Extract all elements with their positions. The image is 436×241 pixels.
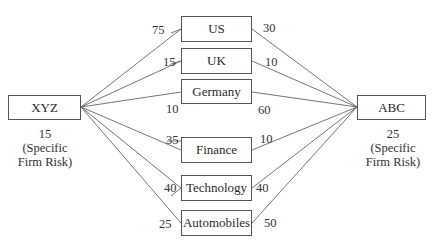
weight-abc-germany: 60 bbox=[258, 104, 271, 117]
factor-box-us: US bbox=[181, 16, 252, 42]
factor-box-uk: UK bbox=[181, 48, 252, 74]
weight-xyz-us: 75 bbox=[152, 24, 165, 37]
specific-risk-abc: 25 (Specific Firm Risk) bbox=[348, 127, 436, 169]
weight-xyz-automobiles: 25 bbox=[159, 218, 172, 231]
edge-xyz-technology bbox=[81, 107, 181, 188]
weight-abc-us: 30 bbox=[263, 22, 276, 35]
factor-box-germany: Germany bbox=[181, 79, 252, 104]
weight-xyz-uk: 15 bbox=[163, 56, 176, 69]
firm-box-abc: ABC bbox=[357, 95, 426, 120]
weight-abc-automobiles: 50 bbox=[264, 217, 277, 230]
edge-xyz-automobiles bbox=[81, 107, 181, 223]
factor-box-automobiles: Automobiles bbox=[181, 210, 252, 236]
weight-abc-finance: 10 bbox=[260, 133, 273, 146]
weight-xyz-technology: 40 bbox=[164, 182, 177, 195]
firm-name-xyz: XYZ bbox=[31, 100, 58, 116]
weight-abc-technology: 40 bbox=[256, 182, 269, 195]
factor-exposure-diagram: XYZ ABC 15 (Specific Firm Risk) 25 (Spec… bbox=[0, 0, 436, 241]
edge-abc-automobiles bbox=[252, 107, 357, 223]
weight-xyz-finance: 35 bbox=[166, 134, 179, 147]
firm-name-abc: ABC bbox=[378, 100, 405, 116]
factor-box-finance: Finance bbox=[181, 137, 252, 163]
factor-box-technology: Technology bbox=[181, 175, 252, 201]
specific-risk-xyz: 15 (Specific Firm Risk) bbox=[0, 127, 90, 169]
firm-box-xyz: XYZ bbox=[8, 95, 81, 120]
weight-xyz-germany: 10 bbox=[166, 103, 179, 116]
weight-abc-uk: 10 bbox=[265, 56, 278, 69]
edge-abc-technology bbox=[252, 107, 357, 188]
